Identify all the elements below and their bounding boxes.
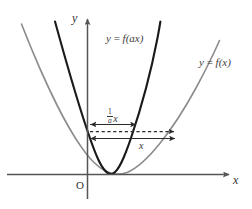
original-curve-label: y = f(x) bbox=[199, 57, 231, 68]
original-curve-path bbox=[22, 24, 220, 174]
original-curve-label-rhs: f(x) bbox=[216, 56, 231, 68]
fraction-denominator: a bbox=[107, 116, 113, 125]
math-figure: y x O y = f(ax) y = f(x) 1 a x x bbox=[0, 0, 252, 209]
transformed-curve-label-equals: = bbox=[111, 32, 123, 44]
scaled-width-variable: x bbox=[113, 113, 117, 124]
scaled-width-label: 1 a x bbox=[107, 108, 118, 124]
transformed-curve-label: y = f(ax) bbox=[106, 33, 143, 44]
original-width-label: x bbox=[139, 141, 143, 151]
transformed-curve-path bbox=[55, 22, 160, 174]
original-curve-label-equals: = bbox=[204, 56, 216, 68]
x-axis-label: x bbox=[233, 174, 238, 186]
transformed-curve-label-rhs: f(ax) bbox=[123, 32, 144, 44]
fraction-numerator: 1 bbox=[107, 108, 113, 116]
y-axis-label: y bbox=[72, 12, 77, 24]
one-over-a-fraction: 1 a bbox=[107, 108, 113, 124]
origin-label: O bbox=[76, 180, 84, 191]
